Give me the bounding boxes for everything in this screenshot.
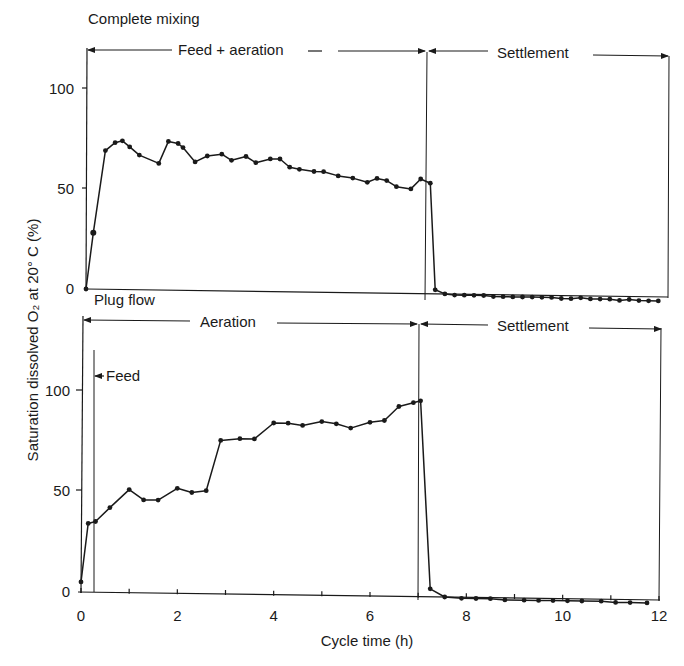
series-line (81, 401, 647, 603)
y-ticks: 100 50 0 (49, 80, 87, 297)
settle-arrow-right (589, 328, 661, 329)
data-point (472, 293, 477, 298)
panel-complete-mixing: Complete mixing Feed + aeration Settleme… (49, 10, 669, 303)
right-boundary (659, 328, 661, 600)
data-point (84, 287, 89, 292)
data-point (510, 295, 515, 300)
y-ticks: 100 50 0 (45, 382, 82, 600)
data-point (286, 421, 291, 426)
data-point (598, 297, 603, 302)
phase-arrow-left (84, 320, 190, 321)
data-point (462, 293, 467, 298)
data-point (607, 297, 612, 302)
y-tick-label: 50 (57, 180, 74, 197)
data-point (384, 178, 389, 183)
data-point (287, 165, 292, 170)
data-point (297, 167, 302, 172)
data-point (156, 161, 161, 166)
data-point (120, 138, 125, 143)
data-point (397, 404, 402, 409)
data-point (382, 418, 387, 423)
data-point (365, 180, 370, 185)
settle-arrow-left (421, 324, 488, 325)
data-point (459, 596, 464, 601)
figure: Saturation dissolved O₂ at 20° C (%) Cyc… (0, 0, 684, 666)
x-tick-label: 2 (173, 607, 181, 624)
data-point (418, 177, 423, 182)
data-point (503, 598, 508, 603)
dual-line-chart: Saturation dissolved O₂ at 20° C (%) Cyc… (0, 0, 684, 666)
data-point (637, 298, 642, 303)
data-point (418, 398, 423, 403)
data-point (141, 498, 146, 503)
x-axis-title: Cycle time (h) (321, 632, 414, 649)
y-tick-label: 0 (62, 583, 70, 600)
phase-label-settlement: Settlement (497, 44, 570, 61)
series-line (86, 141, 658, 301)
data-point (569, 296, 574, 301)
data-point (551, 598, 556, 603)
data-series-plug-flow (79, 398, 650, 605)
data-point (189, 490, 194, 495)
data-point (175, 486, 180, 491)
data-point (181, 145, 186, 150)
data-point (540, 295, 545, 300)
data-point (108, 505, 113, 510)
phase-label-feed-aeration: Feed + aeration (178, 41, 284, 58)
data-point (156, 498, 161, 503)
data-point (79, 580, 84, 585)
data-point (409, 187, 414, 192)
data-point (90, 230, 96, 236)
x-tick-label: 10 (554, 607, 571, 624)
data-point (549, 295, 554, 300)
data-point (452, 293, 457, 298)
data-point (443, 292, 448, 297)
data-point (536, 598, 541, 603)
x-tick-label: 12 (651, 607, 668, 624)
data-point (433, 287, 438, 292)
feed-label: Feed (106, 367, 140, 384)
data-point (252, 437, 257, 442)
phase-divider (425, 52, 427, 300)
data-point (474, 596, 479, 601)
data-point (268, 157, 273, 162)
data-point (613, 600, 618, 605)
data-point (278, 157, 283, 162)
phase-annotations: Feed + aeration Settlement (88, 41, 668, 61)
panel-plug-flow: Plug flow Aeration Settlement Feed (45, 291, 667, 624)
data-point (103, 148, 108, 153)
data-point (312, 169, 317, 174)
data-point (645, 601, 650, 606)
phase-label-aeration: Aeration (200, 313, 256, 330)
data-point (193, 160, 198, 165)
data-point (137, 153, 142, 158)
data-point (127, 487, 132, 492)
feed-annotation: Feed (94, 350, 140, 592)
data-point (86, 521, 91, 526)
phase-annotations: Aeration Settlement (84, 313, 661, 334)
data-point (580, 599, 585, 604)
data-point (348, 426, 353, 431)
data-point (127, 145, 132, 150)
y-axis-title: Saturation dissolved O₂ at 20° C (%) (24, 219, 41, 462)
data-point (321, 169, 326, 174)
y-tick-label: 100 (49, 80, 74, 97)
data-point (394, 184, 399, 189)
data-point (656, 299, 661, 304)
phase-divider (418, 324, 419, 600)
data-point (488, 596, 493, 601)
panel-title: Complete mixing (88, 10, 200, 27)
data-point (368, 420, 373, 425)
data-point (578, 295, 583, 300)
y-axis (86, 48, 87, 290)
x-tick-label: 0 (77, 607, 85, 624)
data-point (522, 598, 527, 603)
data-point (219, 152, 224, 157)
x-tick-label: 4 (269, 607, 277, 624)
x-tick-label: 6 (366, 607, 374, 624)
data-point (93, 519, 98, 524)
y-axis (81, 316, 83, 593)
right-boundary (668, 56, 669, 298)
data-point (375, 176, 380, 181)
data-point (501, 294, 506, 299)
